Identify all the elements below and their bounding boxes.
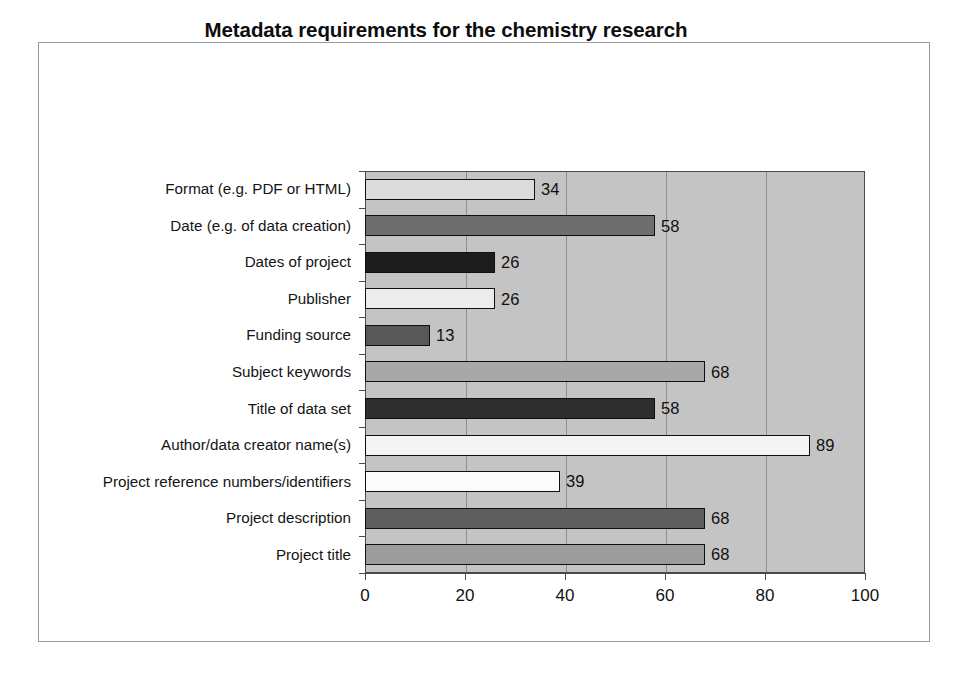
category-tick bbox=[359, 536, 365, 537]
bar[interactable] bbox=[365, 252, 495, 273]
bar-value-label: 58 bbox=[661, 400, 679, 417]
category-tick bbox=[359, 281, 365, 282]
category-tick bbox=[359, 427, 365, 428]
bar[interactable] bbox=[365, 288, 495, 309]
bar-row[interactable]: 89 bbox=[365, 427, 865, 464]
x-axis-tick bbox=[365, 573, 366, 580]
bar-row[interactable]: 34 bbox=[365, 171, 865, 208]
bar-row[interactable]: 58 bbox=[365, 390, 865, 427]
category-label: Format (e.g. PDF or HTML) bbox=[39, 181, 359, 196]
bar[interactable] bbox=[365, 471, 560, 492]
bar[interactable] bbox=[365, 215, 655, 236]
x-axis-tick bbox=[565, 573, 566, 580]
category-label: Funding source bbox=[39, 327, 359, 342]
x-axis-tick-label: 40 bbox=[556, 586, 575, 606]
bar-value-label: 89 bbox=[816, 437, 834, 454]
category-label: Publisher bbox=[39, 291, 359, 306]
category-axis-labels: Format (e.g. PDF or HTML)Date (e.g. of d… bbox=[39, 171, 359, 573]
x-axis-tick-label: 80 bbox=[756, 586, 775, 606]
bar[interactable] bbox=[365, 544, 705, 565]
bar[interactable] bbox=[365, 361, 705, 382]
bar-value-label: 13 bbox=[436, 327, 454, 344]
category-tick bbox=[359, 500, 365, 501]
category-label: Title of data set bbox=[39, 401, 359, 416]
bar-row[interactable]: 39 bbox=[365, 463, 865, 500]
bar-value-label: 39 bbox=[566, 473, 584, 490]
bar-row[interactable]: 58 bbox=[365, 208, 865, 245]
category-label: Project title bbox=[39, 547, 359, 562]
bar-row[interactable]: 68 bbox=[365, 354, 865, 391]
bar-value-label: 26 bbox=[501, 291, 519, 308]
category-label: Project description bbox=[39, 510, 359, 525]
category-tick bbox=[359, 317, 365, 318]
category-tick bbox=[359, 390, 365, 391]
bar[interactable] bbox=[365, 398, 655, 419]
bar-row[interactable]: 26 bbox=[365, 244, 865, 281]
category-tick bbox=[359, 208, 365, 209]
bar[interactable] bbox=[365, 325, 430, 346]
bar[interactable] bbox=[365, 435, 810, 456]
bar[interactable] bbox=[365, 179, 535, 200]
figure-frame: 3458262613685889396868 Format (e.g. PDF … bbox=[38, 42, 930, 642]
x-axis-tick-label: 0 bbox=[360, 586, 369, 606]
category-label: Date (e.g. of data creation) bbox=[39, 218, 359, 233]
bar-value-label: 58 bbox=[661, 218, 679, 235]
category-tick bbox=[359, 463, 365, 464]
x-axis-tick bbox=[665, 573, 666, 580]
bar-value-label: 34 bbox=[541, 181, 559, 198]
x-axis-tick bbox=[765, 573, 766, 580]
bar-value-label: 68 bbox=[711, 364, 729, 381]
x-axis-tick-label: 60 bbox=[656, 586, 675, 606]
bar-value-label: 68 bbox=[711, 510, 729, 527]
bar-row[interactable]: 26 bbox=[365, 281, 865, 318]
category-tick bbox=[359, 354, 365, 355]
bar-value-label: 68 bbox=[711, 546, 729, 563]
x-axis-line bbox=[365, 573, 865, 574]
x-axis-tick bbox=[465, 573, 466, 580]
chart-title-line-1: Metadata requirements for the chemistry … bbox=[60, 16, 832, 44]
category-tick bbox=[359, 244, 365, 245]
bar[interactable] bbox=[365, 508, 705, 529]
x-axis-tick bbox=[865, 573, 866, 580]
bar-row[interactable]: 13 bbox=[365, 317, 865, 354]
category-tick bbox=[359, 171, 365, 172]
bar-row[interactable]: 68 bbox=[365, 536, 865, 573]
category-label: Dates of project bbox=[39, 254, 359, 269]
x-axis-tick-label: 100 bbox=[851, 586, 879, 606]
bar-value-label: 26 bbox=[501, 254, 519, 271]
category-label: Subject keywords bbox=[39, 364, 359, 379]
category-label: Project reference numbers/identifiers bbox=[39, 474, 359, 489]
bar-row[interactable]: 68 bbox=[365, 500, 865, 537]
category-label: Author/data creator name(s) bbox=[39, 437, 359, 452]
bars-layer: 3458262613685889396868 bbox=[365, 171, 865, 573]
x-axis-tick-label: 20 bbox=[456, 586, 475, 606]
